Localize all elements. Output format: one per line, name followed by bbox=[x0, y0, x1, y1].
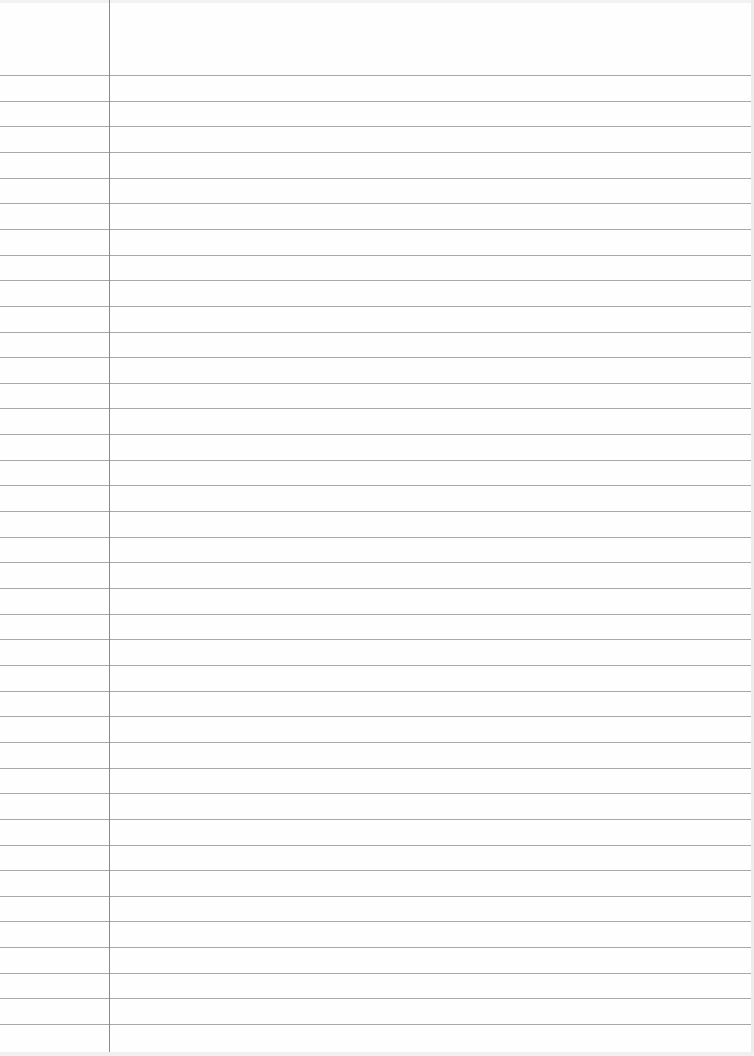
ruled-line bbox=[0, 280, 754, 281]
ruled-line bbox=[0, 537, 754, 538]
ruled-line bbox=[0, 845, 754, 846]
ruled-line bbox=[0, 101, 754, 102]
ruled-line bbox=[0, 152, 754, 153]
ruled-line bbox=[0, 562, 754, 563]
ruled-line bbox=[0, 819, 754, 820]
ruled-line bbox=[0, 1024, 754, 1025]
ruled-line bbox=[0, 178, 754, 179]
ruled-line bbox=[0, 434, 754, 435]
ruled-line bbox=[0, 460, 754, 461]
ruled-line bbox=[0, 75, 754, 76]
ruled-line bbox=[0, 511, 754, 512]
ruled-line bbox=[0, 691, 754, 692]
ruled-line bbox=[0, 203, 754, 204]
ruled-line bbox=[0, 639, 754, 640]
ruled-line bbox=[0, 793, 754, 794]
margin-line bbox=[109, 0, 110, 1056]
ruled-line bbox=[0, 485, 754, 486]
ruled-line bbox=[0, 383, 754, 384]
ruled-line bbox=[0, 998, 754, 999]
page-top-edge bbox=[0, 0, 754, 3]
ruled-line bbox=[0, 588, 754, 589]
ruled-paper-page bbox=[0, 0, 754, 1056]
ruled-line bbox=[0, 768, 754, 769]
ruled-line bbox=[0, 126, 754, 127]
ruled-line bbox=[0, 973, 754, 974]
ruled-line bbox=[0, 947, 754, 948]
ruled-line bbox=[0, 896, 754, 897]
ruled-line bbox=[0, 742, 754, 743]
ruled-line bbox=[0, 332, 754, 333]
ruled-line bbox=[0, 716, 754, 717]
ruled-line bbox=[0, 921, 754, 922]
ruled-line bbox=[0, 870, 754, 871]
ruled-line bbox=[0, 408, 754, 409]
ruled-line bbox=[0, 614, 754, 615]
page-bottom-edge bbox=[0, 1052, 754, 1056]
ruled-line bbox=[0, 357, 754, 358]
ruled-line bbox=[0, 665, 754, 666]
ruled-line bbox=[0, 306, 754, 307]
ruled-line bbox=[0, 255, 754, 256]
ruled-line bbox=[0, 229, 754, 230]
